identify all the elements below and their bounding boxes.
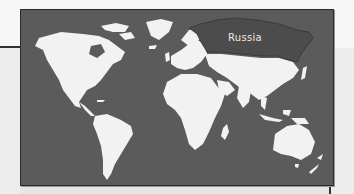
world-map: Russia xyxy=(20,9,334,186)
north-america xyxy=(35,32,125,108)
india xyxy=(237,86,251,108)
bottom-band xyxy=(20,186,329,194)
greenland xyxy=(146,19,173,40)
map-label-russia: Russia xyxy=(228,32,262,43)
central-america xyxy=(79,102,95,116)
world-map-svg xyxy=(21,10,333,185)
australia xyxy=(273,124,315,160)
new-zealand xyxy=(317,154,323,160)
south-america xyxy=(93,114,133,180)
arctic-islands xyxy=(101,23,129,32)
africa xyxy=(163,74,225,150)
